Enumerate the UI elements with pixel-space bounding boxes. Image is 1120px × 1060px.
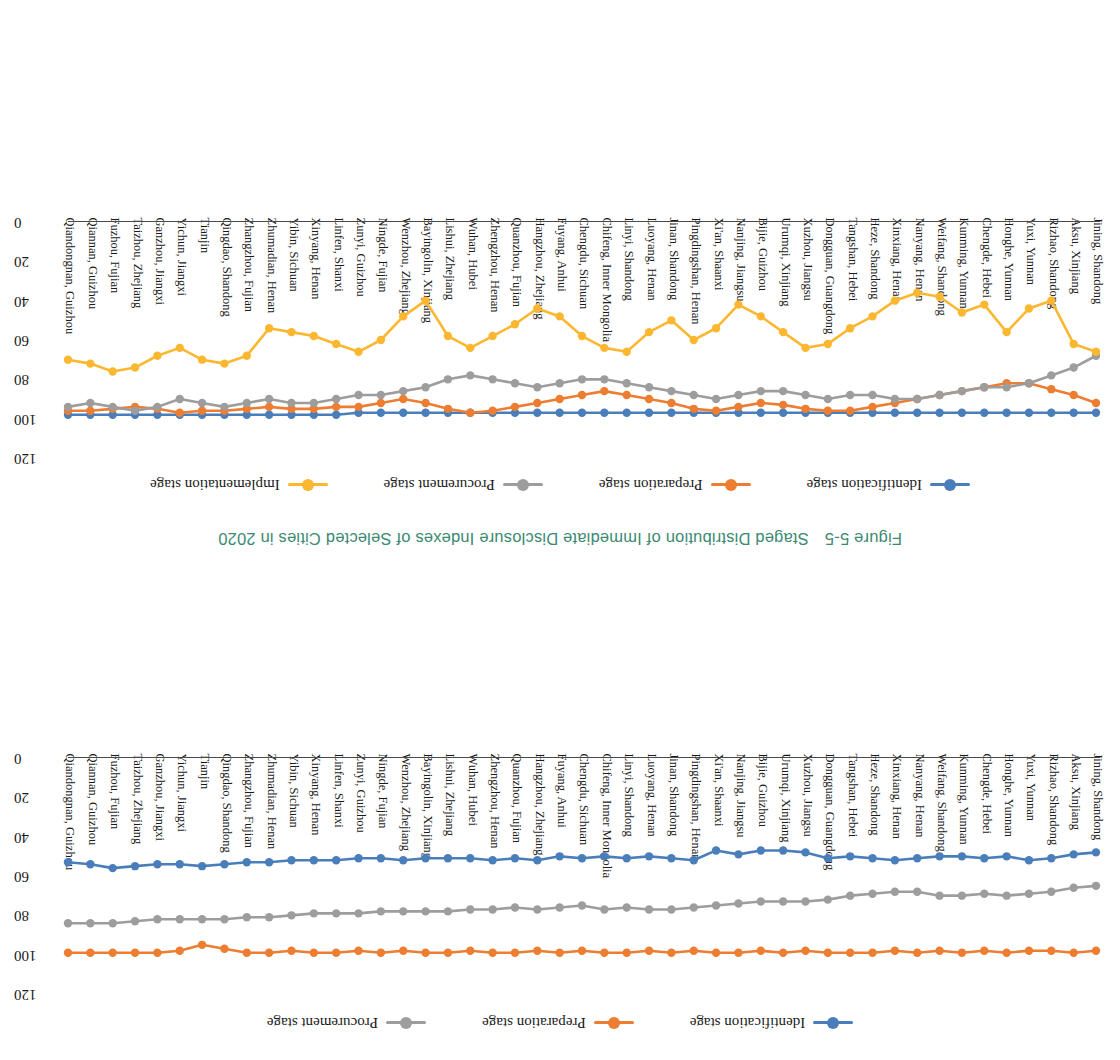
chart-bottom: Identification stage Preparation stage P… <box>0 0 1120 516</box>
data-point <box>622 391 630 399</box>
legend-label: Procurement stage <box>267 1015 378 1032</box>
data-point <box>980 854 988 862</box>
data-point <box>444 375 452 383</box>
data-point <box>935 409 943 417</box>
data-point <box>511 379 519 387</box>
data-point <box>243 352 251 360</box>
legend-item-implementation[interactable]: Implementation stage <box>150 477 328 494</box>
data-point <box>310 909 318 917</box>
legend-item-preparation[interactable]: Preparation stage <box>599 477 751 494</box>
data-point <box>913 409 921 417</box>
data-point <box>64 355 72 363</box>
data-point <box>1002 852 1010 860</box>
data-point <box>555 312 563 320</box>
data-point <box>1069 340 1077 348</box>
data-point <box>622 949 630 957</box>
data-point <box>801 344 809 352</box>
data-point <box>265 858 273 866</box>
data-point <box>377 409 385 417</box>
data-point <box>220 860 228 868</box>
data-point <box>533 383 541 391</box>
figure-title: Staged Distribution of Immediate Disclos… <box>218 530 809 548</box>
data-point <box>846 391 854 399</box>
data-point <box>220 945 228 953</box>
data-point <box>1025 890 1033 898</box>
data-point <box>310 399 318 407</box>
data-point <box>108 403 116 411</box>
data-point <box>377 391 385 399</box>
legend-item-identification[interactable]: Identification stage <box>690 1015 853 1032</box>
data-point <box>824 340 832 348</box>
data-point <box>265 395 273 403</box>
data-point <box>108 864 116 872</box>
data-point <box>622 903 630 911</box>
data-point <box>131 363 139 371</box>
data-point <box>310 332 318 340</box>
legend-item-identification[interactable]: Identification stage <box>807 477 970 494</box>
data-point <box>243 913 251 921</box>
data-point <box>980 300 988 308</box>
legend-item-procurement[interactable]: Procurement stage <box>267 1015 426 1032</box>
data-point <box>332 909 340 917</box>
data-point <box>578 332 586 340</box>
data-point <box>444 332 452 340</box>
data-point <box>891 296 899 304</box>
data-point <box>287 856 295 864</box>
data-point <box>131 407 139 415</box>
data-point <box>757 399 765 407</box>
data-point <box>1069 850 1077 858</box>
data-point <box>600 409 608 417</box>
data-point <box>846 891 854 899</box>
data-point <box>1069 884 1077 892</box>
data-point <box>153 352 161 360</box>
data-point <box>645 328 653 336</box>
data-point <box>511 949 519 957</box>
data-point <box>399 312 407 320</box>
data-point <box>935 391 943 399</box>
data-point <box>64 949 72 957</box>
data-point <box>444 949 452 957</box>
data-point <box>801 897 809 905</box>
data-point <box>466 905 474 913</box>
data-point <box>913 395 921 403</box>
data-point <box>399 409 407 417</box>
legend-bottom: Identification stage Preparation stage P… <box>0 464 1120 516</box>
data-point <box>712 395 720 403</box>
data-point <box>332 395 340 403</box>
data-point <box>176 947 184 955</box>
data-point <box>176 409 184 417</box>
data-point <box>131 949 139 957</box>
data-point <box>377 399 385 407</box>
data-point <box>600 949 608 957</box>
data-point <box>332 403 340 411</box>
data-point <box>108 919 116 927</box>
data-point <box>913 888 921 896</box>
data-point <box>265 403 273 411</box>
legend-item-procurement[interactable]: Procurement stage <box>384 477 543 494</box>
rotated-page: Identification stage Preparation stage P… <box>0 0 1120 1060</box>
data-point <box>600 387 608 395</box>
data-point <box>913 949 921 957</box>
data-point <box>600 852 608 860</box>
data-point <box>600 375 608 383</box>
data-point <box>421 296 429 304</box>
data-point <box>622 379 630 387</box>
line-marker-icon <box>711 479 751 491</box>
plot-area-bottom: Jining, ShandongAksu, XinjiangRizhao, Sh… <box>0 0 1120 464</box>
data-point <box>690 947 698 955</box>
data-point <box>1025 304 1033 312</box>
data-point <box>86 949 94 957</box>
data-point <box>734 403 742 411</box>
data-point <box>533 856 541 864</box>
legend-item-preparation[interactable]: Preparation stage <box>482 1015 634 1032</box>
plot-area-top: Jining, ShandongAksu, XinjiangRizhao, Sh… <box>0 546 1120 1000</box>
data-point <box>399 947 407 955</box>
legend-label: Preparation stage <box>599 477 703 494</box>
data-point <box>1025 856 1033 864</box>
legend-top: Identification stage Preparation stage P… <box>0 1000 1120 1060</box>
line-marker-icon <box>386 1017 426 1029</box>
data-point <box>421 409 429 417</box>
figure-number: Figure 5-5 <box>825 530 902 548</box>
data-point <box>555 409 563 417</box>
data-point <box>712 846 720 854</box>
